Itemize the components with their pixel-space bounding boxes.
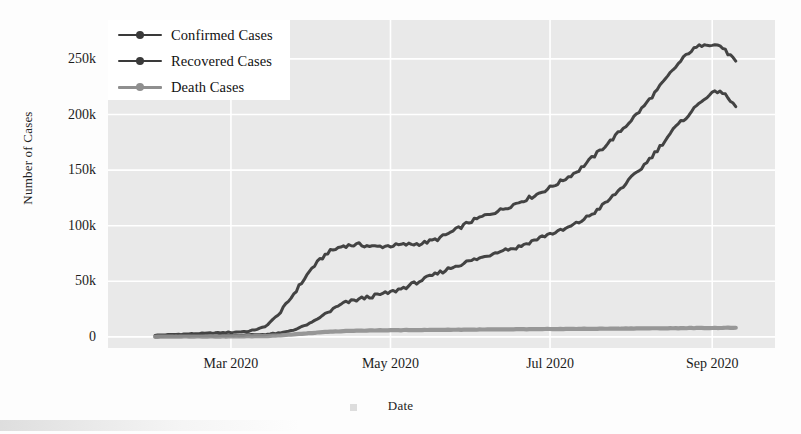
- legend-label: Death Cases: [171, 79, 244, 96]
- x-tick-label: May 2020: [362, 356, 419, 372]
- legend-item-confirmed[interactable]: Confirmed Cases: [118, 22, 273, 48]
- line-marker-icon: [118, 29, 162, 41]
- y-tick-label: 100k: [0, 218, 96, 234]
- scan-artifact: [0, 420, 300, 431]
- y-tick-label: 50k: [0, 273, 96, 289]
- legend-label: Recovered Cases: [171, 53, 272, 70]
- y-tick-label: 200k: [0, 107, 96, 123]
- legend-item-death[interactable]: Death Cases: [118, 74, 244, 100]
- x-tick-label: Sep 2020: [686, 356, 739, 372]
- y-tick-label: 0: [0, 329, 96, 345]
- x-axis-title: Date: [0, 398, 801, 414]
- scan-artifact-speck: [350, 404, 357, 411]
- legend-item-recovered[interactable]: Recovered Cases: [118, 48, 272, 74]
- y-tick-label: 150k: [0, 162, 96, 178]
- x-tick-label: Jul 2020: [526, 356, 574, 372]
- line-marker-icon: [118, 81, 162, 93]
- line-marker-icon: [118, 55, 162, 67]
- chart-legend: Confirmed Cases Recovered Cases Death Ca…: [108, 20, 290, 100]
- x-tick-label: Mar 2020: [204, 356, 259, 372]
- y-tick-label: 250k: [0, 51, 96, 67]
- legend-label: Confirmed Cases: [171, 27, 273, 44]
- chart-figure: Number of Cases 050k100k150k200k250k Mar…: [0, 0, 801, 434]
